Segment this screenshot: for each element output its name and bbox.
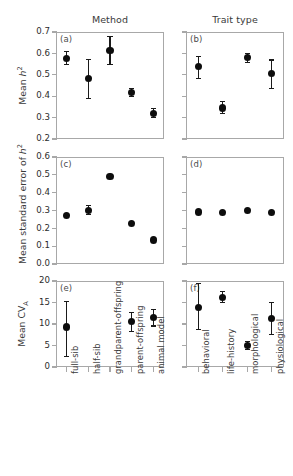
x-tick bbox=[66, 367, 67, 372]
error-bar-cap-lower bbox=[245, 62, 250, 63]
column-title-method: Method bbox=[56, 14, 164, 25]
data-point bbox=[106, 47, 113, 54]
error-bar-cap-upper bbox=[269, 302, 274, 303]
y-tick bbox=[52, 210, 57, 211]
y-tick bbox=[182, 192, 187, 193]
y-axis-title-mean-se-h2: Mean standard error of h2 bbox=[16, 157, 28, 264]
y-tick bbox=[182, 302, 187, 303]
y-tick bbox=[52, 53, 57, 54]
error-bar-cap-upper bbox=[64, 51, 69, 52]
y-tick bbox=[52, 345, 57, 346]
panel-label-c: (c) bbox=[60, 159, 72, 169]
y-tick bbox=[182, 210, 187, 211]
y-tick bbox=[182, 263, 187, 264]
error-bar-cap-upper bbox=[196, 283, 201, 284]
data-point bbox=[63, 323, 70, 330]
x-tick bbox=[247, 367, 248, 372]
x-category-label-trait-2: morphological bbox=[250, 314, 260, 374]
x-tick bbox=[198, 367, 199, 372]
data-point bbox=[150, 236, 157, 243]
y-tick bbox=[182, 246, 187, 247]
figure-panel-grid: MethodTrait type(a)0.20.30.40.50.60.7(b)… bbox=[0, 0, 293, 476]
y-tick bbox=[182, 345, 187, 346]
y-tick bbox=[52, 280, 57, 281]
y-tick bbox=[52, 31, 57, 32]
x-category-label-trait-1: life-history bbox=[226, 329, 236, 374]
data-point bbox=[150, 110, 157, 117]
y-tick bbox=[52, 323, 57, 324]
error-bar-cap-lower bbox=[220, 113, 225, 114]
x-tick bbox=[88, 367, 89, 372]
data-point bbox=[244, 207, 251, 214]
y-tick bbox=[182, 280, 187, 281]
x-tick bbox=[131, 367, 132, 372]
x-category-label-method-4: animal model bbox=[156, 316, 166, 374]
data-point bbox=[195, 208, 202, 215]
y-tick bbox=[182, 117, 187, 118]
error-bar-cap-upper bbox=[129, 312, 134, 313]
y-tick bbox=[52, 246, 57, 247]
error-bar-cap-lower bbox=[269, 334, 274, 335]
x-category-label-trait-3: physiological bbox=[275, 319, 285, 374]
y-tick bbox=[182, 96, 187, 97]
error-bar-cap-lower bbox=[64, 64, 69, 65]
x-category-label-method-2: grandparent-offspring bbox=[113, 281, 123, 374]
error-bar-cap-lower bbox=[64, 356, 69, 357]
data-point bbox=[85, 207, 92, 214]
error-bar-cap-upper bbox=[196, 56, 201, 57]
y-tick bbox=[182, 323, 187, 324]
data-point bbox=[106, 173, 113, 180]
data-point bbox=[195, 63, 202, 70]
error-bar-cap-upper bbox=[269, 59, 274, 60]
y-tick bbox=[52, 263, 57, 264]
error-bar-cap-lower bbox=[129, 96, 134, 97]
y-tick bbox=[182, 53, 187, 54]
y-tick bbox=[182, 156, 187, 157]
error-bar-cap-lower bbox=[269, 88, 274, 89]
panel-b: (b) bbox=[186, 32, 284, 139]
error-bar-cap-upper bbox=[151, 309, 156, 310]
y-tick bbox=[52, 174, 57, 175]
y-tick bbox=[182, 174, 187, 175]
data-point bbox=[195, 304, 202, 311]
y-tick bbox=[52, 228, 57, 229]
error-bar-cap-lower bbox=[86, 214, 91, 215]
y-tick bbox=[182, 138, 187, 139]
y-axis-title-mean-h2: Mean h2 bbox=[16, 32, 28, 139]
panel-label-d: (d) bbox=[190, 159, 202, 169]
x-category-label-trait-0: behavioral bbox=[201, 329, 211, 374]
y-tick bbox=[52, 192, 57, 193]
y-tick bbox=[52, 117, 57, 118]
error-bar-cap-upper bbox=[220, 291, 225, 292]
x-category-label-method-0: full-sib bbox=[70, 346, 80, 374]
error-bar-cap-upper bbox=[151, 108, 156, 109]
error-bar-cap-lower bbox=[129, 331, 134, 332]
y-tick bbox=[182, 228, 187, 229]
x-tick bbox=[153, 367, 154, 372]
y-tick bbox=[182, 366, 187, 367]
data-point bbox=[219, 104, 226, 111]
y-tick bbox=[52, 96, 57, 97]
panel-label-b: (b) bbox=[190, 34, 202, 44]
error-bar-cap-lower bbox=[86, 98, 91, 99]
error-bar-cap-lower bbox=[220, 302, 225, 303]
error-bar-cap-upper bbox=[107, 36, 112, 37]
x-category-label-method-3: parent-offspring bbox=[135, 305, 145, 374]
y-tick bbox=[52, 74, 57, 75]
x-tick bbox=[222, 367, 223, 372]
x-tick bbox=[271, 367, 272, 372]
y-tick bbox=[182, 74, 187, 75]
x-category-label-method-1: half-sib bbox=[92, 343, 102, 374]
y-tick bbox=[52, 138, 57, 139]
y-tick bbox=[52, 366, 57, 367]
x-tick bbox=[109, 367, 110, 372]
error-bar-cap-upper bbox=[220, 101, 225, 102]
error-bar-cap-lower bbox=[196, 78, 201, 79]
error-bar-cap-upper bbox=[64, 301, 69, 302]
error-bar-cap-lower bbox=[151, 325, 156, 326]
error-bar-cap-upper bbox=[86, 59, 91, 60]
panel-label-e: (e) bbox=[60, 283, 72, 293]
panel-label-a: (a) bbox=[60, 34, 72, 44]
error-bar-cap-lower bbox=[107, 64, 112, 65]
y-axis-title-mean-cva: Mean CVA bbox=[16, 281, 30, 367]
